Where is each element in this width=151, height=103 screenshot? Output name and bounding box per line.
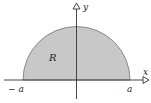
x-axis-arrow-icon bbox=[143, 77, 149, 84]
region-label: R bbox=[48, 52, 57, 63]
half-disk-diagram: y x R − a a bbox=[0, 0, 151, 103]
x-axis-label: x bbox=[143, 67, 148, 77]
y-axis-arrow-icon bbox=[73, 3, 80, 9]
tick-label-neg-a: − a bbox=[8, 84, 24, 94]
y-axis-label: y bbox=[82, 2, 89, 12]
tick-label-a: a bbox=[127, 84, 132, 94]
